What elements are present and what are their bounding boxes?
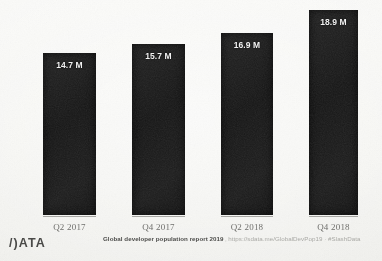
- bar-group-q2-2017: 14.7 M Q2 2017: [43, 0, 96, 232]
- axis-tick: [132, 216, 185, 217]
- axis-tick: [43, 216, 96, 217]
- bar-value-label: 18.9 M: [309, 17, 358, 27]
- bar-value-label: 16.9 M: [221, 40, 273, 50]
- bar-group-q2-2018: 16.9 M Q2 2018: [221, 0, 273, 232]
- bar-texture: [221, 33, 273, 215]
- category-label-q2-2017: Q2 2017: [29, 222, 110, 232]
- bar-group-q4-2018: 18.9 M Q4 2018: [309, 0, 358, 232]
- bar-q2-2017[interactable]: 14.7 M: [43, 53, 96, 215]
- bar-q4-2018[interactable]: 18.9 M: [309, 10, 358, 215]
- category-label-q4-2017: Q4 2017: [118, 222, 199, 232]
- category-label-q2-2018: Q2 2018: [207, 222, 287, 232]
- caption-source-url[interactable]: https://sdata.me/GlobalDevPop19 · #Slash…: [228, 235, 360, 242]
- bar-texture: [309, 10, 358, 215]
- axis-tick: [221, 216, 273, 217]
- slashdata-logo[interactable]: /)ATA: [9, 236, 46, 250]
- caption-title: Global developer population report 2019: [103, 235, 224, 242]
- bar-chart: 14.7 M Q2 2017 15.7 M Q4 2017: [0, 0, 382, 232]
- bar-texture: [132, 44, 185, 215]
- bar-q2-2018[interactable]: 16.9 M: [221, 33, 273, 215]
- bar-q4-2017[interactable]: 15.7 M: [132, 44, 185, 215]
- footer: /)ATA Global developer population report…: [0, 232, 382, 261]
- category-label-q4-2018: Q4 2018: [295, 222, 372, 232]
- chart-source-caption: Global developer population report 2019,…: [103, 235, 361, 242]
- slashdata-logo-icon: /)ATA: [9, 236, 46, 250]
- bar-texture: [43, 53, 96, 215]
- bar-value-label: 14.7 M: [43, 60, 96, 70]
- axis-tick: [309, 216, 358, 217]
- bar-value-label: 15.7 M: [132, 51, 185, 61]
- bar-group-q4-2017: 15.7 M Q4 2017: [132, 0, 185, 232]
